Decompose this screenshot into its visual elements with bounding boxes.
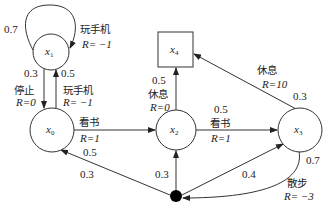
action-x3-x4: 休息 <box>257 64 277 76</box>
mrp-diagram: x1 x0 x2 x3 x4 0.7 玩手机 R= −1 0.3 停止 R=0 … <box>0 0 325 212</box>
action-x0-x2: 看书 <box>79 116 99 128</box>
reward-x3-x4: R=10 <box>261 78 288 90</box>
prob-x1-self: 0.7 <box>4 23 18 35</box>
reward-x2-x4: R=0 <box>149 101 170 113</box>
prob-x2-x4: 0.5 <box>152 74 166 86</box>
prob-x2-x3: 0.5 <box>214 103 228 115</box>
node-terminal-dot <box>170 190 182 202</box>
reward-x1-x0: R=0 <box>15 96 36 108</box>
reward-x1-self: R= −1 <box>81 38 112 50</box>
action-x2-x3: 看书 <box>210 117 230 129</box>
prob-dot-x0: 0.3 <box>80 168 94 180</box>
reward-x3-dot: R= −3 <box>283 190 314 202</box>
edge-dot-x0 <box>61 150 170 195</box>
prob-x3-x4: 0.3 <box>293 90 307 102</box>
reward-x2-x3: R=1 <box>210 132 231 144</box>
action-x2-x4: 休息 <box>148 88 168 100</box>
prob-dot-x2: 0.3 <box>155 168 169 180</box>
prob-dot-x3: 0.4 <box>242 168 256 180</box>
action-x1-x0: 停止 <box>14 84 34 96</box>
reward-x0-x2: R=1 <box>79 132 100 144</box>
action-x3-dot: 散步 <box>287 177 307 189</box>
prob-x0-x1: 0.5 <box>61 67 75 79</box>
edge-dot-x3 <box>182 144 283 195</box>
prob-x3-dot: 0.7 <box>306 154 320 166</box>
action-x0-x1: 玩手机 <box>63 84 94 96</box>
reward-x0-x1: R= −1 <box>62 96 93 108</box>
prob-x1-x0: 0.3 <box>24 67 38 79</box>
action-x1-self: 玩手机 <box>80 23 111 35</box>
prob-x0-dot: 0.5 <box>83 146 97 158</box>
